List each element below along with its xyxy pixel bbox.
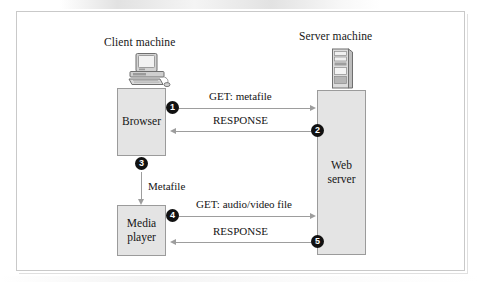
arrow-line-get-metafile <box>172 108 310 109</box>
arrow-line-metafile-internal <box>141 172 142 200</box>
step-marker-4: 4 <box>166 209 179 222</box>
arrow-label-response-metafile: RESPONSE <box>213 114 268 126</box>
web-server-box-label: Webserver <box>327 159 355 186</box>
server-machine-title: Server machine <box>299 30 372 42</box>
arrow-head-get-metafile <box>310 105 316 111</box>
server-tower-icon <box>330 48 356 90</box>
browser-box-label: Browser <box>122 115 161 129</box>
arrow-line-response-metafile <box>176 131 317 132</box>
arrow-head-response-av-file <box>170 239 176 245</box>
browser-box: Browser <box>117 88 166 156</box>
scan-artifact-top <box>60 0 380 9</box>
arrow-line-get-av-file <box>172 216 310 217</box>
scan-artifact-bottom <box>0 276 481 282</box>
arrow-head-metafile-internal <box>138 199 144 205</box>
figure-page: Client machine Browser Mediaplayer Serve… <box>0 0 481 282</box>
arrow-label-response-av-file: RESPONSE <box>213 225 268 237</box>
arrow-head-get-av-file <box>310 213 316 219</box>
arrow-label-get-metafile: GET: metafile <box>209 90 272 102</box>
arrow-head-response-metafile <box>170 128 176 134</box>
step-marker-5: 5 <box>311 235 324 248</box>
arrow-label-get-av-file: GET: audio/video file <box>196 198 292 210</box>
step-marker-1: 1 <box>166 101 179 114</box>
step-marker-2: 2 <box>311 124 324 137</box>
step-marker-3: 3 <box>135 157 148 170</box>
web-server-box: Webserver <box>317 90 366 255</box>
desktop-computer-icon <box>127 53 174 88</box>
arrow-line-response-av-file <box>176 242 317 243</box>
client-machine-title: Client machine <box>104 36 175 48</box>
arrow-label-metafile: Metafile <box>148 180 185 192</box>
media-player-box-label: Mediaplayer <box>127 217 156 244</box>
media-player-box: Mediaplayer <box>117 205 166 256</box>
